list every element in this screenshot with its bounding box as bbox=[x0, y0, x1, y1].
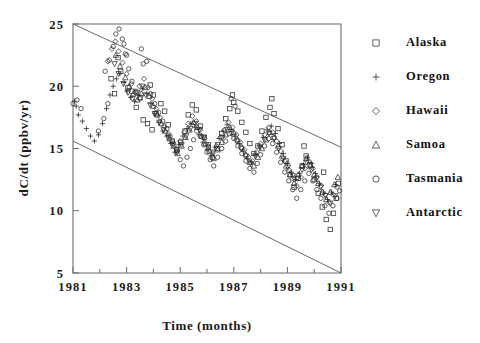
data-point bbox=[114, 32, 118, 36]
data-point bbox=[323, 204, 327, 208]
x-axis-ticks bbox=[73, 267, 341, 273]
data-point bbox=[258, 153, 262, 157]
y-tick-label: 25 bbox=[49, 18, 64, 32]
series-alaska bbox=[109, 55, 341, 231]
legend-item-samoa[interactable]: Samoa bbox=[368, 136, 480, 154]
legend-item-antarctic[interactable]: Antarctic bbox=[368, 204, 480, 222]
x-tick-label: 1983 bbox=[112, 280, 141, 294]
series-hawaii bbox=[105, 39, 339, 205]
data-point bbox=[109, 77, 113, 81]
data-point bbox=[255, 161, 259, 165]
data-point bbox=[114, 76, 119, 81]
data-point bbox=[320, 205, 324, 209]
y-axis-tick-labels: 510152025 bbox=[49, 18, 64, 281]
data-point bbox=[276, 126, 280, 130]
data-point bbox=[127, 67, 131, 71]
data-point bbox=[75, 98, 79, 102]
data-point bbox=[194, 108, 198, 112]
data-point bbox=[92, 138, 97, 143]
data-point bbox=[272, 111, 276, 115]
data-point bbox=[150, 128, 154, 132]
data-point bbox=[270, 141, 274, 145]
legend-item-hawaii[interactable]: Hawaii bbox=[368, 102, 480, 120]
diamond-icon bbox=[368, 102, 384, 120]
data-point bbox=[224, 116, 228, 120]
data-point bbox=[185, 155, 189, 159]
data-point bbox=[84, 126, 89, 131]
triangle-down-icon bbox=[368, 204, 384, 222]
data-point bbox=[328, 227, 332, 231]
data-point bbox=[335, 174, 340, 179]
data-point bbox=[145, 59, 149, 63]
data-point bbox=[321, 170, 325, 174]
data-point bbox=[76, 112, 81, 117]
data-point bbox=[104, 106, 109, 111]
data-point bbox=[120, 37, 124, 41]
x-axis-title: Time (months) bbox=[162, 318, 252, 333]
data-point bbox=[139, 47, 143, 51]
data-point bbox=[244, 130, 248, 134]
legend-item-oregon[interactable]: Oregon bbox=[368, 68, 480, 86]
plus-icon bbox=[368, 68, 384, 86]
data-point bbox=[117, 27, 121, 31]
data-point bbox=[188, 146, 192, 150]
x-tick-label: 1985 bbox=[165, 280, 194, 294]
y-tick-label: 15 bbox=[49, 142, 64, 156]
data-point bbox=[287, 179, 291, 183]
square-icon bbox=[368, 34, 384, 52]
data-point bbox=[260, 129, 264, 133]
data-point bbox=[271, 134, 276, 139]
data-point bbox=[302, 144, 306, 148]
data-point bbox=[299, 187, 303, 191]
y-tick-label: 5 bbox=[57, 267, 64, 281]
data-point bbox=[141, 76, 146, 81]
x-axis-tick-labels: 198119831985198719891991 bbox=[58, 280, 355, 294]
legend-label: Oregon bbox=[406, 69, 450, 84]
data-point bbox=[224, 139, 228, 143]
data-point bbox=[228, 106, 232, 110]
x-tick-label: 1981 bbox=[58, 280, 87, 294]
data-point bbox=[216, 155, 220, 159]
legend-item-tasmania[interactable]: Tasmania bbox=[368, 170, 480, 188]
x-tick-label: 1989 bbox=[273, 280, 302, 294]
legend-label: Tasmania bbox=[406, 171, 463, 186]
data-point bbox=[80, 119, 85, 124]
data-point bbox=[162, 109, 166, 113]
figure-container: 510152025 198119831985198719891991 dC/dt… bbox=[0, 0, 480, 343]
data-point bbox=[134, 105, 138, 109]
series-tasmania bbox=[71, 27, 342, 216]
data-point bbox=[145, 121, 149, 125]
data-point bbox=[212, 164, 216, 168]
data-point bbox=[178, 158, 182, 162]
data-point bbox=[268, 105, 272, 109]
legend-label: Alaska bbox=[406, 35, 447, 50]
data-point bbox=[252, 170, 256, 174]
data-point bbox=[331, 211, 335, 215]
data-point bbox=[240, 120, 244, 124]
data-point bbox=[236, 109, 240, 113]
data-point bbox=[181, 164, 185, 168]
data-point bbox=[102, 116, 106, 120]
data-point bbox=[100, 121, 105, 126]
data-point bbox=[74, 104, 79, 109]
data-point bbox=[88, 133, 93, 138]
y-tick-label: 20 bbox=[49, 80, 64, 94]
data-point bbox=[327, 211, 331, 215]
data-point bbox=[307, 171, 311, 175]
y-axis-title: dC/dt (ppbv/yr) bbox=[16, 100, 31, 197]
triangle-up-icon bbox=[368, 136, 384, 154]
legend-label: Antarctic bbox=[406, 205, 463, 220]
data-point bbox=[324, 217, 328, 221]
data-point bbox=[270, 97, 274, 101]
legend-label: Samoa bbox=[406, 137, 446, 152]
x-tick-label: 1991 bbox=[326, 280, 355, 294]
data-point bbox=[264, 115, 268, 119]
legend-label: Hawaii bbox=[406, 103, 448, 118]
legend-item-alaska[interactable]: Alaska bbox=[368, 34, 480, 52]
data-point bbox=[191, 138, 195, 142]
data-point bbox=[79, 106, 83, 110]
data-point bbox=[111, 84, 116, 89]
data-point bbox=[295, 196, 299, 200]
data-point bbox=[103, 69, 107, 73]
data-point bbox=[141, 118, 145, 122]
